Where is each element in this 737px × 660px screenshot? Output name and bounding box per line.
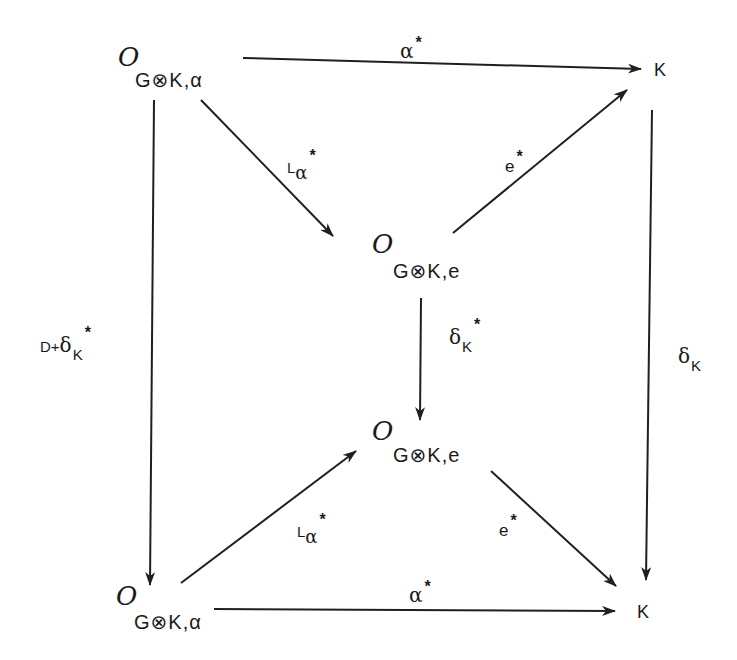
arrow-left bbox=[150, 100, 154, 585]
label-prefix: D+ bbox=[40, 338, 60, 355]
label-sub: α bbox=[295, 162, 307, 183]
label-sub: α bbox=[305, 526, 317, 547]
script-o-symbol: O bbox=[372, 231, 393, 257]
label-sup: * bbox=[320, 511, 326, 528]
arrows-layer bbox=[0, 0, 737, 660]
node-subscript: G⊗K,α bbox=[135, 70, 203, 90]
label-main: e bbox=[499, 521, 508, 540]
label-sup: * bbox=[510, 512, 516, 529]
label-sup: * bbox=[416, 34, 422, 51]
label-sup: * bbox=[85, 324, 91, 341]
label-main: α bbox=[409, 583, 423, 607]
arrow-right bbox=[646, 110, 652, 580]
label-diag-bl-mid: Lα* bbox=[297, 522, 326, 540]
label-main: e bbox=[505, 157, 514, 176]
script-o-symbol: O bbox=[118, 44, 139, 70]
label-top-alpha-star: α* bbox=[400, 41, 422, 61]
label-right-delta-k: δK bbox=[678, 346, 701, 366]
arrow-diag-bl-mid bbox=[181, 451, 356, 583]
label-bottom-alpha-star: α* bbox=[409, 585, 431, 605]
script-o-symbol: O bbox=[372, 418, 393, 444]
label-diag-tl-mid: Lα* bbox=[287, 158, 316, 176]
label-sup: * bbox=[516, 148, 522, 165]
label-sup: * bbox=[310, 147, 316, 164]
label-sub: K bbox=[462, 338, 472, 355]
label-diag-mid-br: e* bbox=[499, 522, 517, 539]
label-main: δ bbox=[60, 333, 72, 357]
label-sub: K bbox=[73, 346, 83, 363]
label-left-d-plus-delta: D+δK* bbox=[40, 335, 91, 355]
node-label: K bbox=[637, 603, 649, 621]
arrow-bottom bbox=[214, 609, 615, 611]
label-main: δ bbox=[449, 325, 461, 349]
script-o-symbol: O bbox=[116, 583, 137, 609]
node-subscript: G⊗K,e bbox=[393, 445, 460, 465]
arrow-top bbox=[243, 58, 641, 69]
label-center-delta-k: δK* bbox=[449, 327, 480, 347]
arrow-center bbox=[420, 298, 421, 420]
node-subscript: G⊗K,α bbox=[134, 612, 202, 632]
label-diag-mid-tr: e* bbox=[505, 158, 523, 175]
label-main: α bbox=[400, 39, 414, 63]
node-label: K bbox=[654, 61, 666, 79]
label-sup: * bbox=[425, 578, 431, 595]
label-sub: K bbox=[691, 357, 701, 374]
commutative-diagram: O G⊗K,α K O G⊗K,e O G⊗K,e O G⊗K,α K α* D… bbox=[0, 0, 737, 660]
arrow-diag-mid-tr bbox=[453, 90, 627, 233]
node-subscript: G⊗K,e bbox=[393, 261, 460, 281]
label-sup: * bbox=[474, 316, 480, 333]
label-main: δ bbox=[678, 344, 690, 368]
